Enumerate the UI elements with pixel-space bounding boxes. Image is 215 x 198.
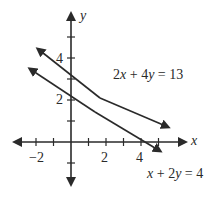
x-axis-label: x bbox=[190, 133, 198, 148]
x-axis bbox=[15, 138, 185, 146]
equation-label-line-2: x + 2y = 4 bbox=[146, 166, 203, 181]
x-tick-label-2: 2 bbox=[101, 150, 108, 165]
y-axis-label: y bbox=[78, 8, 87, 23]
coordinate-plane: x y −2 2 4 2 4 2x + 4y = 13 x + 2y = 4 bbox=[0, 0, 215, 198]
y-axis bbox=[67, 14, 75, 184]
x-tick-label-neg2: −2 bbox=[29, 150, 44, 165]
x-tick-label-4: 4 bbox=[136, 150, 143, 165]
y-tick-label-2: 2 bbox=[56, 92, 63, 107]
equation-label-line-1: 2x + 4y = 13 bbox=[113, 67, 183, 82]
